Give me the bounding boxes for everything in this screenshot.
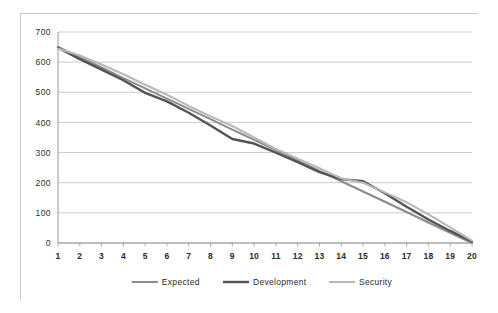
x-axis-tick-label: 16 <box>380 251 390 261</box>
x-axis-tick-label: 7 <box>186 251 191 261</box>
x-axis-tick-label: 10 <box>249 251 259 261</box>
y-axis-tick-label: 700 <box>36 27 51 37</box>
y-axis-tick-label: 300 <box>36 148 51 158</box>
x-axis-tick-label: 14 <box>336 251 346 261</box>
chart-frame: 0100200300400500600700 12345678910111213… <box>20 13 478 300</box>
y-axis-tick-label: 0 <box>46 238 51 248</box>
y-axis-tick-label: 600 <box>36 57 51 67</box>
chart-plot-area: 0100200300400500600700 12345678910111213… <box>21 14 477 299</box>
legend-label: Development <box>253 277 307 287</box>
x-axis-tick-label: 9 <box>230 251 235 261</box>
x-axis-tick-label: 12 <box>293 251 303 261</box>
x-axis-tick-label: 15 <box>358 251 368 261</box>
x-axis-tick-label: 3 <box>99 251 104 261</box>
x-axis-tick-label: 2 <box>77 251 82 261</box>
x-axis-tick-label: 17 <box>402 251 412 261</box>
y-axis-tick-label: 200 <box>36 178 51 188</box>
y-axis-tick-label: 400 <box>36 118 51 128</box>
x-axis-tick-label: 20 <box>467 251 477 261</box>
x-axis-tick-label: 8 <box>208 251 213 261</box>
x-axis-tick-label: 4 <box>121 251 126 261</box>
legend-label: Expected <box>162 277 200 287</box>
x-axis-tick-label: 13 <box>315 251 325 261</box>
x-axis-tick-label: 11 <box>271 251 280 261</box>
x-axis-tick-label: 18 <box>423 251 433 261</box>
y-axis-tick-label: 500 <box>36 87 51 97</box>
legend-label: Security <box>359 277 393 287</box>
x-axis-tick-label: 19 <box>445 251 455 261</box>
x-axis-tick-label: 5 <box>143 251 148 261</box>
x-axis-tick-label: 6 <box>164 251 169 261</box>
line-chart: 0100200300400500600700 12345678910111213… <box>21 14 479 301</box>
x-axis-tick-label: 1 <box>56 251 61 261</box>
y-axis-tick-label: 100 <box>36 208 51 218</box>
